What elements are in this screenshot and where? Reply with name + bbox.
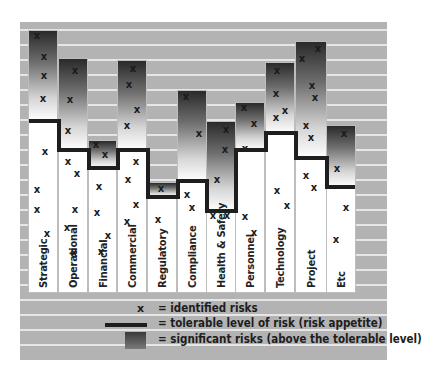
risk-marker-icon: x	[125, 175, 131, 185]
risk-marker-icon: x	[124, 121, 130, 131]
risk-marker-icon: x	[189, 203, 195, 213]
tolerance-segment	[265, 131, 297, 135]
column-compliance: Compliance	[178, 91, 206, 292]
category-label: Compliance	[186, 225, 199, 288]
risk-marker-icon: x	[183, 92, 189, 102]
tolerance-segment	[206, 209, 237, 213]
risk-marker-icon: x	[274, 66, 280, 76]
risk-marker-icon: x	[284, 201, 290, 211]
risk-marker-icon: x	[158, 184, 164, 194]
risk-marker-icon: x	[41, 71, 47, 81]
category-label: Personnel	[244, 234, 257, 288]
risk-marker-icon: x	[273, 89, 279, 99]
risk-marker-icon: x	[303, 121, 309, 131]
column-commercial: Commercial	[118, 61, 146, 292]
risk-marker-icon: x	[94, 208, 100, 218]
risk-marker-icon: x	[40, 94, 46, 104]
risk-marker-icon: x	[124, 217, 130, 227]
risk-marker-icon: x	[74, 169, 80, 179]
risk-marker-icon: x	[133, 200, 139, 210]
legend-x-marker-icon: x	[137, 302, 144, 315]
risk-marker-icon: x	[343, 203, 349, 213]
tolerance-segment	[117, 148, 149, 152]
risk-marker-icon: x	[282, 106, 288, 116]
risk-marker-icon: x	[311, 183, 317, 193]
tolerance-segment	[326, 185, 355, 189]
risk-marker-icon: x	[196, 129, 202, 139]
significant-risk-gradient	[118, 61, 146, 150]
risk-marker-icon: x	[65, 157, 71, 167]
tolerance-segment	[177, 179, 208, 183]
legend-significant-swatch-icon	[125, 332, 146, 349]
risk-marker-icon: x	[98, 247, 104, 257]
gridline	[20, 44, 387, 46]
risk-marker-icon: x	[34, 185, 40, 195]
tolerance-segment	[29, 119, 60, 123]
risk-marker-icon: x	[96, 182, 102, 192]
risk-marker-icon: x	[214, 175, 220, 185]
risk-marker-icon: x	[241, 103, 247, 113]
risk-marker-icon: x	[65, 126, 71, 136]
risk-marker-icon: x	[341, 129, 347, 139]
risk-marker-icon: x	[184, 190, 190, 200]
category-label: Commercial	[126, 224, 139, 288]
legend-significant-risks: = significant risks (above the tolerable…	[158, 332, 422, 346]
risk-marker-icon: x	[71, 248, 77, 258]
risk-marker-icon: x	[242, 212, 248, 222]
category-label: Etc	[335, 271, 348, 288]
risk-marker-icon: x	[155, 215, 161, 225]
column-regulatory: Regulatory	[148, 183, 176, 292]
legend-tolerable-level: = tolerable level of risk (risk appetite…	[158, 316, 383, 330]
risk-marker-icon: x	[273, 113, 279, 123]
risk-marker-icon: x	[130, 64, 136, 74]
tolerance-segment	[147, 195, 179, 199]
risk-marker-icon: x	[223, 125, 229, 135]
risk-marker-icon: x	[126, 80, 132, 90]
tolerance-segment	[88, 166, 119, 170]
risk-marker-icon: x	[303, 171, 309, 181]
risk-marker-icon: x	[222, 145, 228, 155]
tolerance-step	[146, 148, 150, 199]
risk-marker-icon: x	[72, 205, 78, 215]
column-personnel: Personnel	[236, 103, 264, 292]
risk-marker-icon: x	[274, 186, 280, 196]
legend-identified-risks: = identified risks	[158, 301, 258, 315]
column-etc: Etc	[327, 126, 355, 292]
risk-marker-icon: x	[42, 147, 48, 157]
risk-marker-icon: x	[102, 150, 108, 160]
risk-marker-icon: x	[334, 164, 340, 174]
risk-marker-icon: x	[93, 140, 99, 150]
risk-marker-icon: x	[44, 229, 50, 239]
tolerance-segment	[58, 148, 90, 152]
tolerance-step	[205, 179, 209, 213]
risk-marker-icon: x	[308, 133, 314, 143]
risk-marker-icon: x	[133, 157, 139, 167]
category-label: Project	[305, 250, 318, 288]
category-label: Technology	[274, 228, 287, 289]
risk-marker-icon: x	[41, 52, 47, 62]
column-technology: Technology	[266, 63, 294, 292]
risk-marker-icon: x	[67, 95, 73, 105]
risk-marker-icon: x	[105, 231, 111, 241]
risk-marker-icon: x	[64, 223, 70, 233]
category-label: Strategic	[37, 239, 50, 288]
risk-marker-icon: x	[309, 81, 315, 91]
risk-marker-icon: x	[299, 54, 305, 64]
risk-marker-icon: x	[251, 119, 257, 129]
risk-marker-icon: x	[72, 66, 78, 76]
category-label: Regulatory	[156, 229, 169, 288]
tolerance-segment	[295, 156, 328, 160]
tolerance-step	[234, 148, 238, 213]
significant-risk-gradient	[207, 122, 235, 211]
risk-marker-icon: x	[312, 93, 318, 103]
risk-marker-icon: x	[251, 228, 257, 238]
risk-marker-icon: x	[134, 105, 140, 115]
risk-marker-icon: x	[333, 235, 339, 245]
risk-marker-icon: x	[34, 205, 40, 215]
risk-marker-icon: x	[34, 31, 40, 41]
gridline	[20, 29, 387, 31]
tolerance-segment	[235, 148, 267, 152]
risk-marker-icon: x	[315, 44, 321, 54]
legend-tolerance-line-icon	[105, 323, 147, 327]
